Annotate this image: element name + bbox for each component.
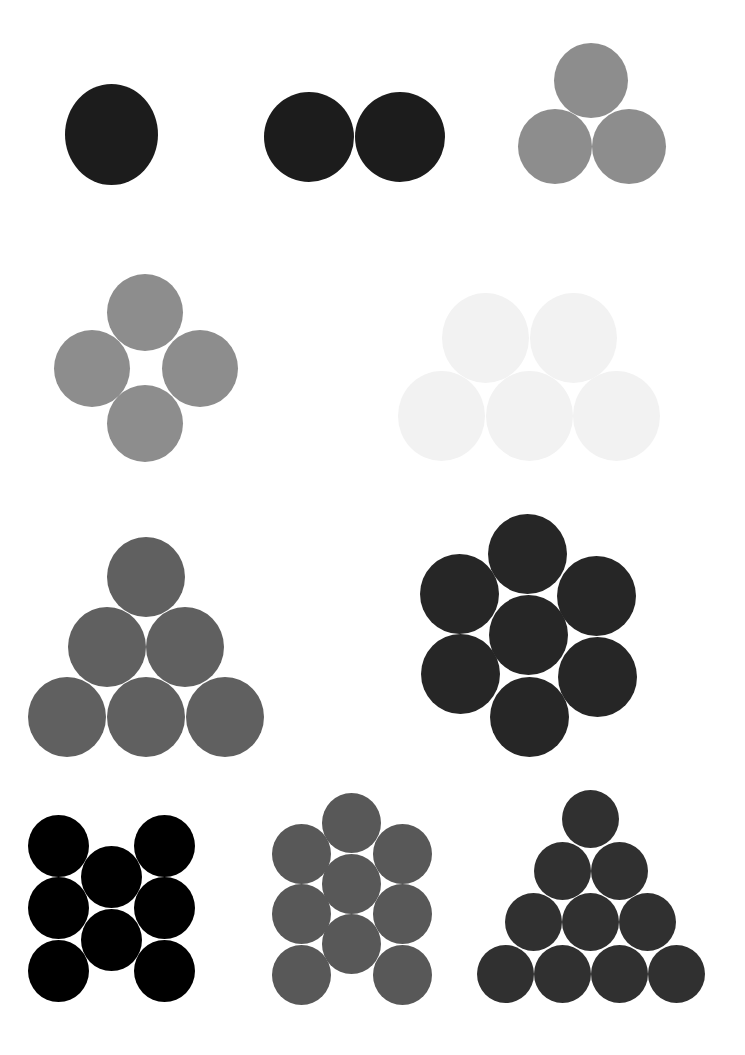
circle <box>442 293 529 383</box>
circle <box>162 330 238 407</box>
circle <box>591 842 648 900</box>
circle <box>81 909 142 971</box>
circle <box>54 330 130 407</box>
circle <box>28 677 106 757</box>
circle <box>134 877 195 939</box>
circle <box>107 385 183 462</box>
circle <box>322 793 381 853</box>
circle <box>322 914 381 974</box>
circle <box>562 893 619 951</box>
circle <box>573 371 660 461</box>
circle <box>272 884 331 944</box>
circle <box>264 92 354 182</box>
circle <box>562 790 619 848</box>
circle <box>648 945 705 1003</box>
circle <box>488 514 567 594</box>
circle <box>477 945 534 1003</box>
circle <box>505 893 562 951</box>
circle <box>420 554 499 634</box>
circle <box>534 945 591 1003</box>
circle <box>107 677 185 757</box>
circle-group-4 <box>0 0 745 1055</box>
circle-group-5 <box>0 0 745 1055</box>
circle-group-6 <box>0 0 745 1055</box>
circle <box>28 940 89 1002</box>
circle <box>186 677 264 757</box>
circle-group-10 <box>0 0 745 1055</box>
circle <box>146 607 224 687</box>
circle-group-2 <box>0 0 745 1055</box>
circle <box>490 677 569 757</box>
circle <box>518 109 592 184</box>
circle <box>134 940 195 1002</box>
circle-groups-figure <box>0 0 745 1055</box>
circle <box>28 877 89 939</box>
circle-group-3 <box>0 0 745 1055</box>
circle <box>272 945 331 1005</box>
circle <box>398 371 485 461</box>
circle <box>373 884 432 944</box>
circle-group-7 <box>0 0 745 1055</box>
circle <box>107 537 185 617</box>
circle-group-1 <box>0 0 745 1055</box>
circle <box>81 846 142 908</box>
circle <box>554 43 628 118</box>
circle <box>421 634 500 714</box>
circle <box>489 595 568 675</box>
circle-group-8 <box>0 0 745 1055</box>
circle <box>28 815 89 877</box>
circle <box>591 945 648 1003</box>
circle <box>322 854 381 914</box>
circle <box>486 371 573 461</box>
circle <box>134 815 195 877</box>
circle <box>373 945 432 1005</box>
circle <box>107 274 183 351</box>
circle <box>557 556 636 636</box>
circle <box>592 109 666 184</box>
circle <box>65 84 158 185</box>
circle <box>619 893 676 951</box>
circle <box>373 824 432 884</box>
circle <box>534 842 591 900</box>
circle <box>355 92 445 182</box>
circle <box>272 824 331 884</box>
circle <box>530 293 617 383</box>
circle-group-9 <box>0 0 745 1055</box>
circle <box>558 637 637 717</box>
circle <box>68 607 146 687</box>
